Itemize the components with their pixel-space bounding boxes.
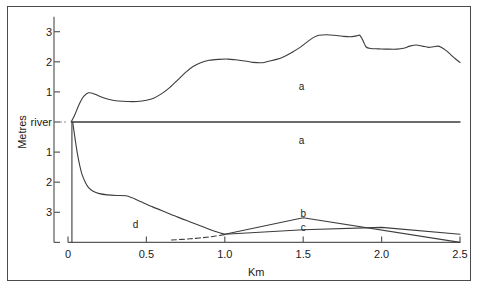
data-series-group [71,35,460,243]
y-tick-label: 1 [46,146,52,158]
y-tick-label: 2 [46,56,52,68]
y-tick-label: 2 [46,176,52,188]
figure-container: Metres Km 321river123 00.51.01.52.02.5 a… [0,0,479,289]
chart-plot-area [0,0,479,289]
region-label-a: a [299,80,305,91]
dashed-former-bed-trace [171,235,224,240]
x-tick-label: 2.0 [374,248,389,260]
x-axis-title: Km [248,266,265,278]
y-axis-title: Metres [16,102,28,162]
x-tick-label: 1.5 [296,248,311,260]
b-upper-deposit-profile [225,218,460,243]
axis-ticks-group [54,17,460,243]
d-channel-bed-profile [73,122,225,234]
c-lower-deposit-profile [225,227,460,234]
region-label-b: b [300,207,306,218]
y-tick-label: 3 [46,206,52,218]
a-upper-bank-profile [71,35,460,122]
region-label-d: d [133,218,139,229]
y-tick-label: river [31,116,52,128]
y-tick-label: 3 [46,26,52,38]
region-label-c: c [301,221,306,232]
region-label-a: a [299,135,305,146]
x-tick-label: 0.5 [139,248,154,260]
x-tick-label: 1.0 [217,248,232,260]
y-tick-label: 1 [46,86,52,98]
x-tick-label: 2.5 [452,248,467,260]
x-tick-label: 0 [65,248,71,260]
